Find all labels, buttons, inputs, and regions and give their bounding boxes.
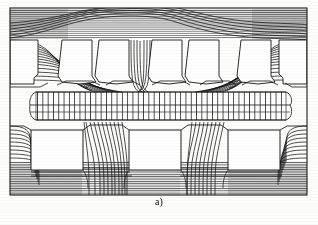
upper-slot-5: [185, 40, 223, 84]
upper-left-corner-shade: [10, 9, 68, 39]
upper-slot-3: [95, 40, 133, 84]
flux-plot: [0, 0, 318, 205]
lower-slot-3: [228, 130, 280, 170]
upper-slot-1: [10, 40, 38, 84]
lower-slots: [31, 130, 280, 170]
flux-line-diagram: [0, 0, 318, 205]
figure-container: a): [0, 0, 318, 225]
figure-caption: a): [0, 196, 318, 208]
upper-slot-2: [58, 40, 96, 84]
airgap-vertical-flux: [36, 92, 286, 120]
lower-slot-1: [31, 130, 83, 170]
lower-slot-2: [129, 130, 181, 170]
upper-slot-7: [279, 40, 307, 84]
upper-slot-6: [237, 40, 275, 84]
upper-slot-4: [148, 40, 186, 84]
